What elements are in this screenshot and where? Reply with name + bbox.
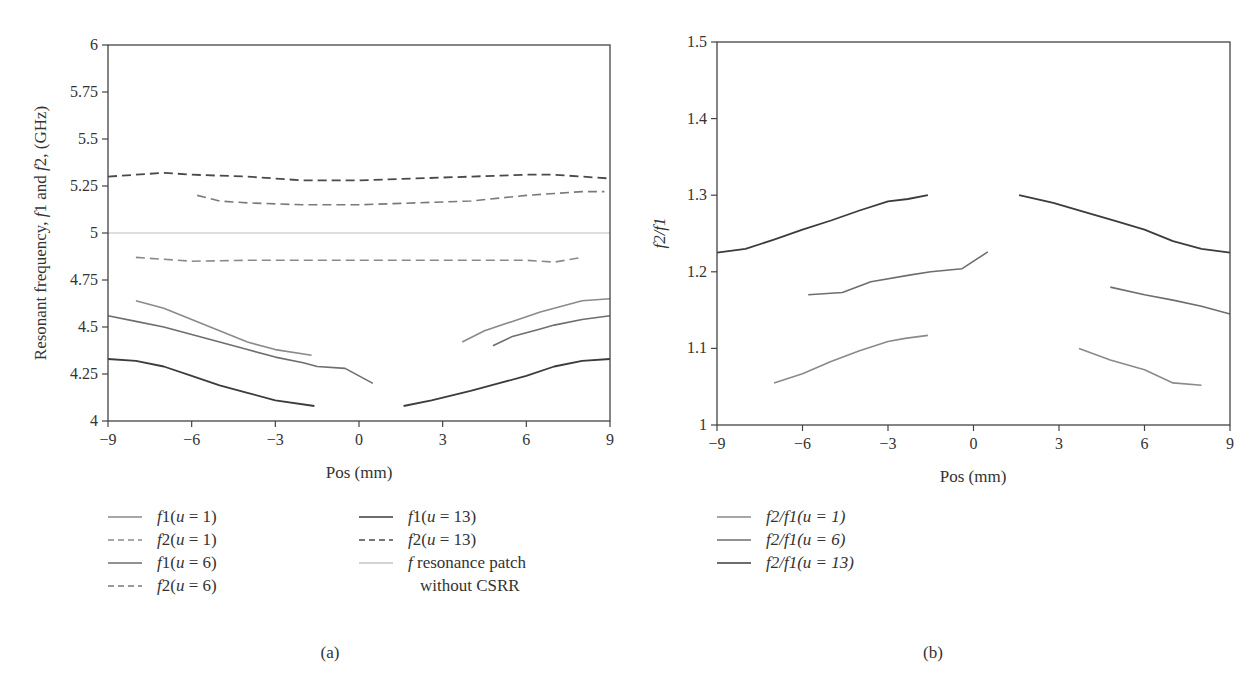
legend-label: f2(u = 1)	[157, 530, 217, 549]
series-line	[808, 252, 988, 295]
x-tick-label: 0	[355, 431, 363, 448]
chart-panel-b: −9−6−3036911.11.21.31.41.5 Pos (mm) f2/f…	[650, 33, 1234, 662]
series-line	[404, 359, 610, 406]
plot-a-series	[108, 173, 610, 406]
y-tick-label: 1	[699, 416, 707, 433]
y-tick-label: 1.1	[687, 339, 707, 356]
series-line	[136, 257, 582, 262]
y-tick-label: 1.3	[687, 186, 707, 203]
x-tick-label: −3	[267, 431, 284, 448]
series-line	[774, 335, 928, 383]
x-tick-label: −3	[879, 435, 896, 452]
x-axis-label-b: Pos (mm)	[940, 467, 1007, 486]
legend-label: f2/f1(u = 13)	[766, 553, 854, 572]
series-line	[1079, 348, 1202, 385]
caption-b: (b)	[923, 643, 943, 662]
y-tick-label: 4.75	[70, 271, 98, 288]
figure: −9−6−3036944.254.54.7555.255.55.756 Pos …	[0, 0, 1257, 685]
x-tick-label: −9	[708, 435, 725, 452]
x-tick-label: −6	[794, 435, 811, 452]
y-tick-label: 4	[90, 412, 98, 429]
y-tick-label: 1.2	[687, 263, 707, 280]
chart-panel-a: −9−6−3036944.254.54.7555.255.55.756 Pos …	[31, 36, 614, 662]
legend-label: f1(u = 13)	[408, 507, 476, 526]
x-tick-label: −6	[183, 431, 200, 448]
legend-label: f2(u = 6)	[157, 576, 217, 595]
legend-label: f2/f1(u = 1)	[766, 507, 846, 526]
x-tick-label: −9	[99, 431, 116, 448]
series-line	[717, 195, 928, 252]
x-tick-label: 3	[1055, 435, 1063, 452]
series-line	[462, 299, 610, 342]
y-axis-label-b: f2/f1	[650, 217, 669, 248]
plot-b-axes: −9−6−3036911.11.21.31.41.5	[687, 33, 1234, 452]
y-tick-label: 4.5	[78, 318, 98, 335]
y-tick-label: 1.5	[687, 33, 707, 50]
series-line	[493, 316, 610, 346]
plot-b-series	[717, 195, 1230, 385]
x-tick-label: 9	[606, 431, 614, 448]
series-line	[108, 316, 373, 384]
legend-label: f resonance patch	[408, 553, 527, 572]
series-line	[1110, 287, 1230, 314]
series-line	[197, 192, 604, 205]
x-tick-label: 6	[522, 431, 530, 448]
series-line	[1019, 195, 1230, 252]
y-tick-label: 5.25	[70, 177, 98, 194]
x-tick-label: 6	[1141, 435, 1149, 452]
y-axis-label-a: Resonant frequency, f1 and f2, (GHz)	[31, 106, 50, 360]
x-tick-label: 0	[970, 435, 978, 452]
x-tick-label: 9	[1226, 435, 1234, 452]
legend-label: f1(u = 6)	[157, 553, 217, 572]
caption-a: (a)	[321, 643, 340, 662]
legend-label-continuation: without CSRR	[420, 576, 520, 595]
plot-a-axes: −9−6−3036944.254.54.7555.255.55.756	[70, 36, 614, 448]
legend-a: f1(u = 1)f2(u = 1)f1(u = 6)f2(u = 6)f1(u…	[108, 507, 527, 595]
series-line	[136, 301, 312, 356]
x-axis-label-a: Pos (mm)	[326, 463, 393, 482]
x-tick-label: 3	[439, 431, 447, 448]
series-line	[108, 173, 610, 181]
legend-label: f2/f1(u = 6)	[766, 530, 846, 549]
y-tick-label: 1.4	[687, 110, 707, 127]
y-tick-label: 6	[90, 36, 98, 53]
y-tick-label: 5.5	[78, 130, 98, 147]
series-line	[108, 359, 314, 406]
legend-label: f1(u = 1)	[157, 507, 217, 526]
legend-label: f2(u = 13)	[408, 530, 476, 549]
y-tick-label: 5	[90, 224, 98, 241]
y-tick-label: 4.25	[70, 365, 98, 382]
y-tick-label: 5.75	[70, 83, 98, 100]
legend-b: f2/f1(u = 1)f2/f1(u = 6)f2/f1(u = 13)	[717, 507, 854, 572]
